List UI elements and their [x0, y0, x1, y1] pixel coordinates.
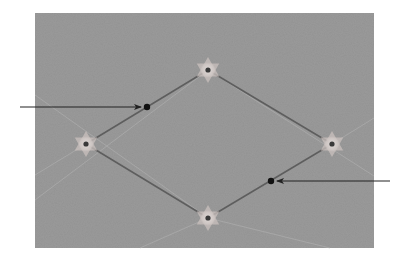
point-dot-icon [144, 104, 150, 110]
point-dot-icon [268, 178, 274, 184]
vertex-dot-icon [205, 67, 210, 72]
vertex-dot-icon [329, 141, 334, 146]
vertex-dot-icon [205, 215, 210, 220]
diagram-canvas [0, 0, 410, 259]
vertex-dot-icon [83, 141, 88, 146]
